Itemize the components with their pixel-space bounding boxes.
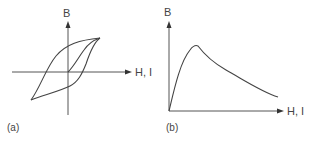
panel-caption-b: (b) bbox=[166, 122, 178, 133]
y-axis-arrow-icon bbox=[66, 21, 71, 28]
figure: B H, I (a) B H, I (b) bbox=[0, 0, 316, 142]
x-axis-label-b: H, I bbox=[287, 105, 304, 117]
x-axis-label-a: H, I bbox=[135, 66, 152, 78]
hysteresis-upper-branch bbox=[31, 38, 100, 100]
y-axis-label-b: B bbox=[164, 6, 171, 18]
y-axis-label-a: B bbox=[63, 7, 70, 19]
x-axis-arrow-icon bbox=[277, 109, 284, 114]
panel-a: B H, I (a) bbox=[7, 7, 152, 133]
y-axis-arrow-icon bbox=[167, 21, 172, 28]
panel-b: B H, I (b) bbox=[164, 6, 304, 133]
x-axis-arrow-icon bbox=[125, 70, 132, 75]
peak-curve bbox=[169, 46, 278, 111]
panel-caption-a: (a) bbox=[7, 122, 19, 133]
